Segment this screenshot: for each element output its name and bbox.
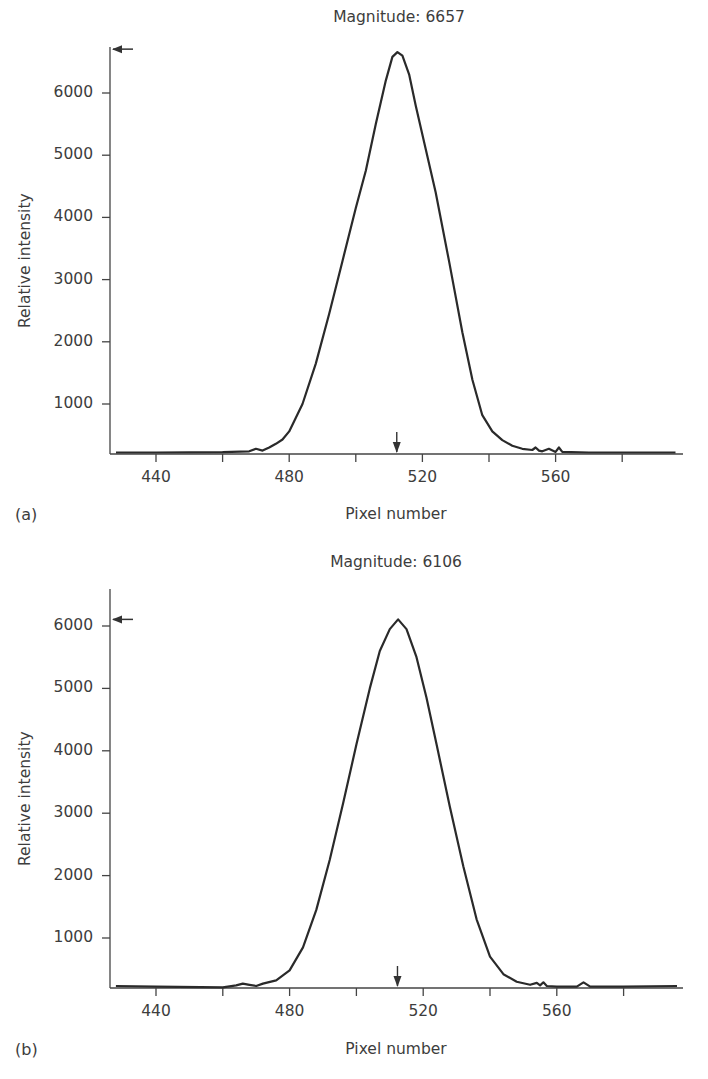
chart-b-svg [0,0,708,1079]
chart-b-title: Magnitude: 6106 [330,553,462,571]
chart-b-ylabel: Relative intensity [16,731,34,866]
peak-arrow-x-icon [393,966,401,987]
chart-b-xlabel: Pixel number [345,1040,446,1058]
x-tick-label: 440 [141,1002,171,1020]
x-tick-label: 560 [542,1002,572,1020]
y-tick-label: 4000 [33,741,93,759]
chart-panel-b: Magnitude: 6106 Relative intensity 10002… [0,0,708,1079]
y-tick-label: 6000 [33,616,93,634]
chart-b-panel-label: (b) [15,1040,38,1059]
x-tick-label: 480 [275,1002,305,1020]
y-tick-label: 2000 [33,866,93,884]
chart-b-curve [116,619,677,987]
y-tick-label: 1000 [33,928,93,946]
y-tick-label: 3000 [33,803,93,821]
peak-arrow-y-icon [112,615,133,623]
y-tick-label: 5000 [33,678,93,696]
x-tick-label: 520 [408,1002,438,1020]
chart-b-axes [102,589,683,996]
